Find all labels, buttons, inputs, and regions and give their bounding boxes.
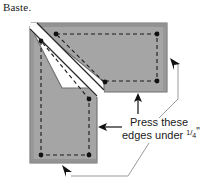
fabric-horizontal-arm-edge-shade	[32, 23, 167, 27]
stitch-corner-dot	[103, 80, 108, 85]
stitch-corner-dot	[155, 32, 160, 37]
fabric-vertical-arm-left-shade	[30, 26, 34, 163]
annotation-line-2-prefix: edges under	[122, 129, 186, 141]
bottom-edge-arrow	[134, 93, 142, 114]
fabric-horizontal-arm-right-shade	[163, 23, 167, 92]
vertical-arm-right-edge-arrow	[98, 123, 122, 131]
fabric-vertical-arm-bottom-shade	[30, 159, 97, 163]
stitch-corner-dot	[54, 32, 59, 37]
stitch-corner-dot	[87, 97, 92, 102]
stitch-corner-dot	[87, 153, 92, 158]
baste-diagram: Press these edges under 1/4"	[0, 0, 202, 192]
figure-page: Baste.	[0, 0, 202, 192]
annotation-line-1: Press these	[130, 116, 188, 128]
stitch-corner-dot	[39, 153, 44, 158]
stitch-corner-dot	[39, 39, 44, 44]
inch-mark: "	[196, 126, 200, 137]
annotation-line-2: edges under 1/4"	[122, 126, 200, 141]
stitch-corner-dot	[155, 79, 160, 84]
bottom-left-arrow	[62, 165, 72, 177]
